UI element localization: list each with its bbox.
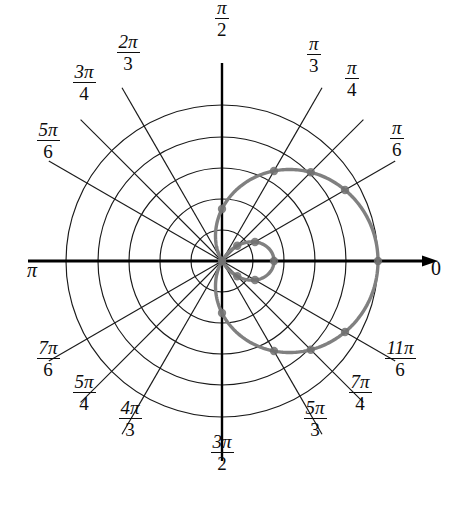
- fraction-denominator: 3: [307, 55, 321, 75]
- label-leader-60deg: [300, 88, 322, 126]
- angle-label-theta-5pi-4: 5π4: [73, 372, 96, 413]
- angle-label-theta-pi: π: [27, 260, 37, 280]
- fraction: 5π4: [73, 372, 96, 413]
- data-point-marker: [218, 257, 226, 265]
- fraction-denominator: 2: [211, 453, 234, 473]
- angle-label-theta-pi-6: π6: [390, 118, 404, 159]
- angle-label-theta-11pi-6: 11π6: [385, 338, 416, 379]
- label-leader-120deg: [122, 88, 144, 126]
- fraction-denominator: 3: [304, 419, 327, 439]
- fraction-denominator: 6: [390, 139, 404, 159]
- data-point-marker: [233, 242, 241, 250]
- fraction-denominator: 3: [117, 53, 140, 73]
- fraction: 5π6: [37, 120, 60, 161]
- fraction-denominator: 4: [349, 393, 372, 413]
- fraction: π2: [215, 0, 229, 39]
- fraction-numerator: 5π: [73, 372, 96, 393]
- fraction-numerator: 4π: [119, 398, 142, 419]
- fraction: 5π3: [304, 398, 327, 439]
- data-point-marker: [270, 167, 278, 175]
- angle-label-theta-pi-4: π4: [345, 58, 359, 99]
- fraction: π6: [390, 118, 404, 159]
- data-point-marker: [218, 309, 226, 317]
- fraction: 3π4: [73, 62, 96, 103]
- fraction: 7π4: [349, 372, 372, 413]
- polar-plot-canvas: [0, 0, 469, 511]
- angle-label-theta-5pi-3: 5π3: [304, 398, 327, 439]
- data-point-marker: [307, 168, 315, 176]
- fraction-numerator: 3π: [73, 62, 96, 83]
- data-point-marker: [307, 346, 315, 354]
- fraction: 4π3: [119, 398, 142, 439]
- grid-spoke-225deg: [112, 261, 222, 371]
- label-leader-30deg: [357, 161, 395, 183]
- grid-spoke-240deg: [144, 261, 222, 396]
- fraction-numerator: 5π: [304, 398, 327, 419]
- fraction-numerator: 5π: [37, 120, 60, 141]
- grid-spoke-30deg: [222, 183, 357, 261]
- fraction-numerator: 2π: [117, 32, 140, 53]
- fraction-numerator: 7π: [37, 338, 60, 359]
- angle-label-theta-7pi-4: 7π4: [349, 372, 372, 413]
- fraction-denominator: 6: [385, 359, 416, 379]
- grid-spoke-210deg: [87, 261, 222, 339]
- angle-label-theta-pi-2: π2: [215, 0, 229, 39]
- fraction-numerator: π: [345, 58, 359, 79]
- data-point-marker: [251, 238, 259, 246]
- data-point-marker: [341, 328, 349, 336]
- label-leader-135deg: [81, 120, 112, 151]
- angle-label-text: 0: [431, 258, 441, 278]
- fraction-numerator: 11π: [385, 338, 416, 359]
- fraction: 3π2: [211, 432, 234, 473]
- fraction-numerator: π: [390, 118, 404, 139]
- angle-label-theta-4pi-3: 4π3: [119, 398, 142, 439]
- fraction-denominator: 2: [215, 19, 229, 39]
- fraction-numerator: 3π: [211, 432, 234, 453]
- angle-label-theta-pi-3: π3: [307, 34, 321, 75]
- label-leader-45deg: [332, 120, 363, 151]
- fraction-numerator: 7π: [349, 372, 372, 393]
- angle-label-theta-7pi-6: 7π6: [37, 338, 60, 379]
- angle-label-theta-2pi-3: 2π3: [117, 32, 140, 73]
- angle-label-theta-3pi-4: 3π4: [73, 62, 96, 103]
- fraction: π4: [345, 58, 359, 99]
- data-point-marker: [270, 347, 278, 355]
- angle-label-theta-0: 0: [431, 258, 441, 278]
- fraction-denominator: 6: [37, 359, 60, 379]
- data-point-marker: [233, 272, 241, 280]
- grid-spoke-150deg: [87, 183, 222, 261]
- fraction: 11π6: [385, 338, 416, 379]
- fraction-numerator: π: [307, 34, 321, 55]
- data-point-marker: [270, 257, 278, 265]
- grid-spoke-330deg: [222, 261, 357, 339]
- angle-label-theta-5pi-6: 5π6: [37, 120, 60, 161]
- fraction-denominator: 4: [73, 83, 96, 103]
- data-point-marker: [341, 186, 349, 194]
- fraction: 2π3: [117, 32, 140, 73]
- data-point-marker: [251, 276, 259, 284]
- fraction-denominator: 6: [37, 141, 60, 161]
- fraction-denominator: 4: [345, 79, 359, 99]
- data-point-marker: [374, 257, 382, 265]
- data-point-marker: [218, 205, 226, 213]
- angle-label-theta-3pi-2: 3π2: [211, 432, 234, 473]
- fraction-numerator: π: [215, 0, 229, 19]
- fraction: π3: [307, 34, 321, 75]
- fraction-denominator: 3: [119, 419, 142, 439]
- fraction: 7π6: [37, 338, 60, 379]
- label-leader-150deg: [49, 161, 87, 183]
- polar-plot-figure: 0π6π4π3π22π33π45π6π7π65π44π33π25π37π411π…: [0, 0, 469, 511]
- angle-label-text: π: [27, 260, 37, 280]
- grid-spoke-120deg: [144, 126, 222, 261]
- fraction-denominator: 4: [73, 393, 96, 413]
- grid-spoke-135deg: [112, 151, 222, 261]
